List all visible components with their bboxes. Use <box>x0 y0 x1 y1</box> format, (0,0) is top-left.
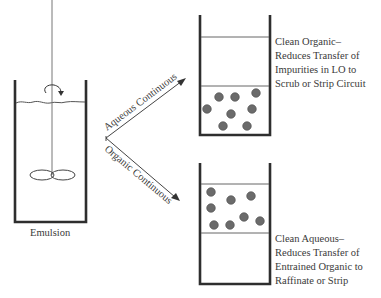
upper-settler-beaker <box>200 15 270 135</box>
organic-droplets <box>203 89 261 131</box>
impeller-blade-right <box>51 170 75 180</box>
note-line: Impurities in LO to <box>275 63 366 77</box>
aqueous-continuous-arrow <box>106 78 186 138</box>
note-line: Entrained Organic to <box>275 260 363 274</box>
aqueous-droplets <box>207 188 265 230</box>
clean-aqueous-note: Clean Aqueous– Reduces Transfer of Entra… <box>275 232 363 288</box>
liquid-surface-line <box>16 101 85 103</box>
diagram-canvas: Aqueous Continuous Organic Continuous <box>0 0 381 298</box>
organic-continuous-label: Organic Continuous <box>103 143 175 206</box>
note-line: Clean Organic– <box>275 35 366 49</box>
aqueous-continuous-label: Aqueous Continuous <box>102 71 179 133</box>
mixer-beaker <box>15 0 86 222</box>
note-line: Raffinate or Strip <box>275 274 363 288</box>
emulsion-label: Emulsion <box>30 226 70 240</box>
clean-organic-note: Clean Organic– Reduces Transfer of Impur… <box>275 35 366 91</box>
note-line: Reduces Transfer of <box>275 246 363 260</box>
note-line: Reduces Transfer of <box>275 49 366 63</box>
note-line: Clean Aqueous– <box>275 232 363 246</box>
lower-settler-beaker <box>200 163 270 284</box>
note-line: Scrub or Strip Circuit <box>275 77 366 91</box>
impeller-blade-left <box>30 170 54 180</box>
